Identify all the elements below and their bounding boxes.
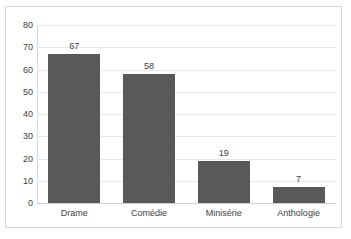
x-axis-category-label: Drame xyxy=(61,207,88,219)
y-axis-tick-label: 80 xyxy=(9,21,33,30)
bar-value-label: 58 xyxy=(144,61,154,71)
y-axis-tick-label: 50 xyxy=(9,88,33,97)
bar-group: 58 xyxy=(112,25,187,203)
plot-area: 6758197 xyxy=(37,25,336,203)
y-axis-tick-label: 70 xyxy=(9,43,33,52)
x-axis-category-label: Comédie xyxy=(131,207,167,219)
chart-container: 80706050403020100 6758197 DrameComédieMi… xyxy=(5,6,342,228)
y-axis-tick-label: 60 xyxy=(9,66,33,75)
y-axis-tick-label: 30 xyxy=(9,132,33,141)
y-axis: 80706050403020100 xyxy=(6,25,33,203)
bar-group: 67 xyxy=(37,25,112,203)
bar[interactable] xyxy=(123,74,175,203)
x-axis-category-label: Anthologie xyxy=(277,207,320,219)
y-axis-tick-label: 10 xyxy=(9,177,33,186)
bar[interactable] xyxy=(198,161,250,203)
y-axis-tick-label: 0 xyxy=(9,199,33,208)
y-axis-tick-label: 20 xyxy=(9,155,33,164)
gridline xyxy=(37,203,336,204)
y-axis-tick-label: 40 xyxy=(9,110,33,119)
x-axis: DrameComédieMinisérieAnthologie xyxy=(37,207,336,225)
bar-value-label: 67 xyxy=(69,41,79,51)
x-axis-category-label: Minisérie xyxy=(206,207,242,219)
bar[interactable] xyxy=(273,187,325,203)
bar-value-label: 7 xyxy=(296,174,301,184)
bar[interactable] xyxy=(48,54,100,203)
bar-group: 7 xyxy=(261,25,336,203)
bar-value-label: 19 xyxy=(219,148,229,158)
bar-group: 19 xyxy=(187,25,262,203)
